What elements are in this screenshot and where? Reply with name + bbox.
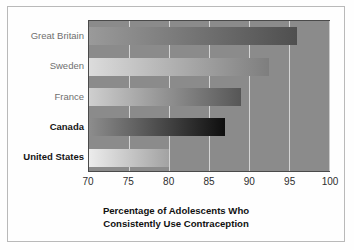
x-tick-75: 75: [123, 176, 134, 187]
category-label-canada: Canada: [8, 121, 84, 132]
x-tick-95: 95: [284, 176, 295, 187]
gridline-100: [329, 21, 330, 171]
bar-great-britain[interactable]: [89, 27, 297, 45]
chart-title: Percentage of Adolescents WhoConsistentl…: [16, 205, 336, 230]
bar-united-states[interactable]: [89, 149, 169, 167]
category-label-sweden: Sweden: [8, 60, 84, 71]
category-label-great-britain: Great Britain: [8, 30, 84, 41]
chart-title-line-1: Percentage of Adolescents Who: [16, 205, 336, 218]
x-tick-80: 80: [163, 176, 174, 187]
bar-sweden[interactable]: [89, 58, 269, 76]
bar-france[interactable]: [89, 88, 241, 106]
category-label-united-states: United States: [8, 151, 84, 162]
x-tick-70: 70: [82, 176, 93, 187]
x-tick-100: 100: [322, 176, 339, 187]
x-tick-85: 85: [203, 176, 214, 187]
figure: Great BritainSwedenFranceCanadaUnited St…: [0, 0, 354, 250]
chart-title-line-2: Consistently Use Contraception: [16, 218, 336, 231]
x-tick-90: 90: [244, 176, 255, 187]
category-axis-labels: Great BritainSwedenFranceCanadaUnited St…: [8, 20, 84, 172]
category-label-france: France: [8, 91, 84, 102]
plot-area: [88, 20, 330, 172]
x-axis-tick-labels: 707580859095100: [88, 176, 330, 190]
bar-canada[interactable]: [89, 118, 225, 136]
